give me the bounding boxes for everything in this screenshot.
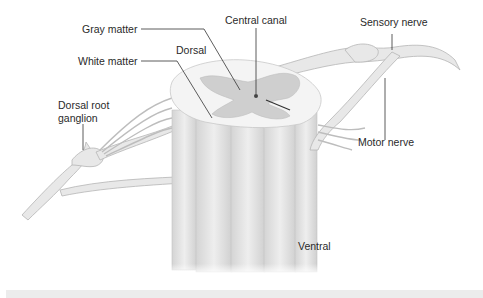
label-dorsal: Dorsal <box>176 44 206 56</box>
label-dorsal-root-ganglion-line1: Dorsal root <box>58 99 109 111</box>
label-sensory-nerve: Sensory nerve <box>360 16 428 28</box>
label-white-matter: White matter <box>78 55 138 67</box>
label-ventral: Ventral <box>298 240 331 252</box>
label-central-canal: Central canal <box>225 14 287 26</box>
label-gray-matter: Gray matter <box>82 23 137 35</box>
label-motor-nerve: Motor nerve <box>358 136 414 148</box>
bottom-strip <box>6 290 483 298</box>
central-canal-dot <box>254 94 258 98</box>
diagram-illustration <box>0 0 483 298</box>
label-dorsal-root-ganglion-line2: ganglion <box>58 112 98 124</box>
spinal-cord-diagram: Gray matter Central canal Sensory nerve … <box>0 0 483 298</box>
